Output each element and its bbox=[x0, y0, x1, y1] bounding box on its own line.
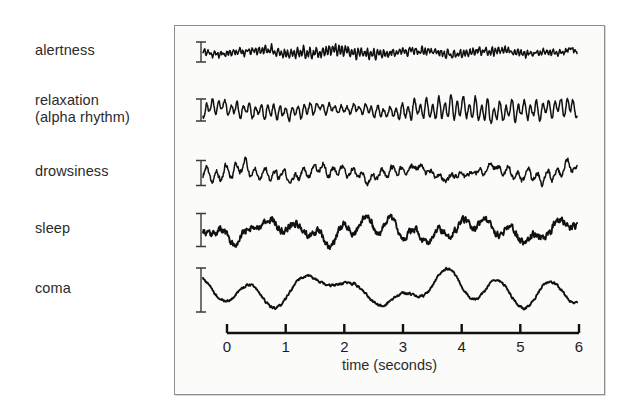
eeg-trace-group-1 bbox=[196, 95, 577, 123]
eeg-waveform-3 bbox=[203, 215, 577, 250]
axis-tick-label-4: 4 bbox=[458, 338, 466, 355]
trace-label-column: alertness relaxation (alpha rhythm) drow… bbox=[0, 0, 174, 414]
axis-tick-label-1: 1 bbox=[282, 338, 290, 355]
eeg-figure: alertness relaxation (alpha rhythm) drow… bbox=[0, 0, 639, 414]
eeg-trace-group-0 bbox=[196, 42, 577, 62]
axis-caption: time (seconds) bbox=[174, 357, 605, 373]
eeg-waveform-0 bbox=[203, 44, 577, 60]
scale-bar-1 bbox=[196, 99, 206, 121]
eeg-plot: 0123456 bbox=[175, 26, 604, 394]
axis-line bbox=[227, 324, 579, 333]
axis-tick-label-2: 2 bbox=[340, 338, 348, 355]
scale-bar-4 bbox=[196, 268, 206, 312]
axis-tick-label-6: 6 bbox=[575, 338, 583, 355]
trace-label-coma: coma bbox=[35, 280, 71, 297]
eeg-trace-group-4 bbox=[196, 268, 577, 312]
axis-tick-label-3: 3 bbox=[399, 338, 407, 355]
eeg-waveform-2 bbox=[203, 157, 577, 187]
eeg-waveform-1 bbox=[203, 95, 577, 123]
trace-label-drowsiness: drowsiness bbox=[35, 163, 109, 180]
axis-tick-label-0: 0 bbox=[223, 338, 231, 355]
trace-label-relaxation: relaxation (alpha rhythm) bbox=[35, 92, 130, 126]
time-axis: 0123456 bbox=[223, 324, 583, 355]
eeg-waveform-4 bbox=[203, 268, 577, 310]
eeg-trace-group-3 bbox=[196, 214, 577, 250]
eeg-panel: 0123456 bbox=[174, 25, 605, 395]
scale-bar-0 bbox=[196, 42, 206, 62]
trace-label-alertness: alertness bbox=[35, 42, 95, 59]
eeg-trace-group-2 bbox=[196, 157, 577, 187]
trace-label-sleep: sleep bbox=[35, 220, 70, 237]
axis-tick-label-5: 5 bbox=[516, 338, 524, 355]
